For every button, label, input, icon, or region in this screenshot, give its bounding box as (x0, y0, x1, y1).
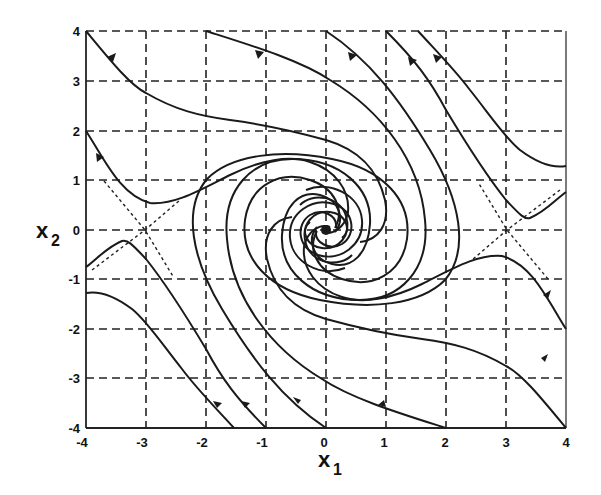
svg-text:-1: -1 (256, 435, 268, 450)
svg-text:1: 1 (380, 435, 387, 450)
y-axis-label: x 2 (36, 218, 60, 249)
svg-text:3: 3 (502, 435, 509, 450)
svg-text:1: 1 (73, 173, 80, 188)
svg-text:-3: -3 (136, 435, 148, 450)
y-tick-labels: 4 3 2 1 0 -1 -2 -3 -4 (68, 24, 80, 436)
svg-text:1: 1 (333, 461, 342, 478)
svg-text:-3: -3 (68, 371, 80, 386)
svg-text:-2: -2 (68, 322, 80, 337)
svg-text:-1: -1 (68, 272, 80, 287)
svg-text:x: x (318, 447, 331, 472)
svg-text:2: 2 (73, 124, 80, 139)
svg-text:2: 2 (51, 232, 60, 249)
svg-text:3: 3 (73, 74, 80, 89)
phase-portrait-chart: 4 3 2 1 0 -1 -2 -3 -4 -4 -3 -2 -1 0 1 2 … (0, 0, 601, 495)
svg-text:-4: -4 (68, 421, 80, 436)
svg-text:-4: -4 (76, 435, 88, 450)
svg-text:4: 4 (562, 435, 570, 450)
svg-text:2: 2 (441, 435, 448, 450)
svg-text:-2: -2 (196, 435, 208, 450)
svg-text:4: 4 (73, 24, 81, 39)
x-axis-label: x 1 (318, 447, 342, 478)
svg-text:x: x (36, 218, 49, 243)
svg-text:0: 0 (73, 223, 80, 238)
